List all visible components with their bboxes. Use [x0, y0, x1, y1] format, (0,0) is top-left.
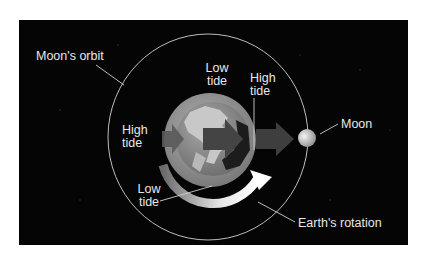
- high-tide-left-label: High tide: [122, 124, 148, 150]
- low-tide-top-label: Low tide: [199, 62, 235, 88]
- moon-label: Moon: [341, 118, 372, 131]
- moons-orbit-leader-line: [96, 65, 124, 85]
- right-arrow-icon: [256, 122, 294, 156]
- earths-rotation-leader-line: [258, 202, 295, 222]
- high-tide-right-line2: tide: [250, 85, 276, 98]
- earths-rotation-label: Earth's rotation: [298, 217, 382, 230]
- moon-leader-line: [320, 124, 338, 134]
- moons-orbit-label: Moon's orbit: [36, 50, 104, 63]
- moon-icon: [298, 129, 316, 147]
- low-tide-bottom-label: Low tide: [133, 183, 165, 209]
- high-tide-left-line2: tide: [122, 137, 148, 150]
- low-tide-bottom-line2: tide: [133, 196, 165, 209]
- low-tide-top-line2: tide: [199, 75, 235, 88]
- high-tide-right-label: High tide: [250, 72, 276, 98]
